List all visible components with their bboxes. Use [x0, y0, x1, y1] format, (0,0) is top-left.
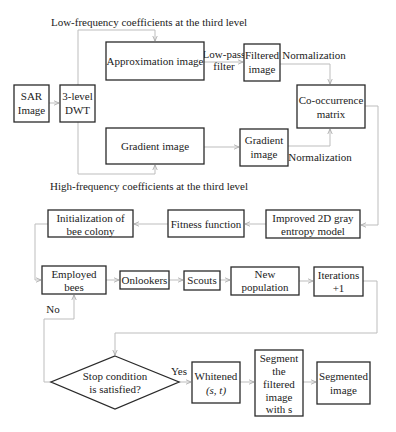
connectors — [35, 30, 378, 382]
svg-text:Fitness function: Fitness function — [171, 218, 242, 230]
node-improved-entropy-model: Improved 2D gray entropy model — [266, 210, 360, 238]
svg-text:Image: Image — [18, 104, 46, 116]
svg-text:+1: +1 — [333, 282, 345, 294]
node-gradient-image-large: Gradient image — [106, 128, 204, 164]
node-approximation-image: Approximation image — [106, 42, 204, 80]
svg-text:SAR: SAR — [21, 90, 43, 102]
flowchart: Low-frequency coefficients at the third … — [0, 0, 396, 432]
node-whitened: Whitened (s, t) — [192, 362, 240, 403]
yes-label: Yes — [171, 365, 187, 377]
svg-text:bees: bees — [64, 281, 84, 293]
svg-text:Approximation image: Approximation image — [107, 55, 204, 67]
svg-text:Initialization of: Initialization of — [56, 212, 124, 224]
svg-text:image: image — [249, 63, 276, 75]
node-sar-image: SAR Image — [14, 85, 49, 122]
svg-text:Improved 2D gray: Improved 2D gray — [272, 212, 354, 224]
node-co-occurrence-matrix: Co-occurrence matrix — [297, 85, 365, 128]
svg-text:is satisfied?: is satisfied? — [89, 383, 141, 395]
node-scouts: Scouts — [184, 271, 220, 290]
svg-text:population: population — [241, 281, 289, 293]
low-pass-label-line2: filter — [213, 60, 235, 72]
svg-text:Segment: Segment — [260, 352, 299, 364]
svg-text:(s, t): (s, t) — [206, 384, 227, 397]
svg-text:matrix: matrix — [317, 108, 346, 120]
low-pass-label-line1: Low-pass — [203, 48, 246, 60]
svg-text:New: New — [255, 268, 276, 280]
node-segmented-image: Segmented image — [317, 362, 370, 404]
no-label: No — [46, 303, 60, 315]
node-3-level-dwt: 3-level DWT — [60, 85, 95, 122]
low-frequency-label: Low-frequency coefficients at the third … — [51, 16, 247, 28]
node-new-population: New population — [231, 267, 299, 295]
arrow-filtered-to-cooc — [280, 64, 330, 84]
svg-text:Gradient: Gradient — [245, 134, 283, 146]
high-frequency-label: High-frequency coefficients at the third… — [50, 180, 248, 192]
svg-text:Filtered: Filtered — [245, 49, 280, 61]
node-segment-filtered-image: Segment the filtered image with s — [255, 350, 303, 416]
normalization-top-label: Normalization — [282, 49, 346, 61]
node-stop-condition: Stop condition is satisfied? — [51, 356, 179, 409]
svg-text:3-level: 3-level — [62, 90, 93, 102]
svg-text:Scouts: Scouts — [187, 274, 216, 286]
svg-text:image: image — [251, 148, 278, 160]
svg-text:bee colony: bee colony — [67, 225, 115, 237]
node-onlookers: Onlookers — [120, 271, 169, 289]
node-gradient-image-small: Gradient image — [240, 129, 288, 166]
svg-text:DWT: DWT — [65, 104, 90, 116]
svg-text:Iterations: Iterations — [318, 269, 360, 281]
node-iterations: Iterations +1 — [314, 267, 363, 296]
node-employed-bees: Employed bees — [42, 266, 106, 294]
svg-text:Employed: Employed — [51, 268, 97, 280]
svg-text:with s: with s — [266, 403, 293, 415]
svg-text:image: image — [330, 384, 357, 396]
node-initialization-bee-colony: Initialization of bee colony — [48, 210, 133, 237]
arrow-gradient-to-cooc — [288, 129, 330, 146]
svg-text:Co-occurrence: Co-occurrence — [299, 94, 364, 106]
svg-text:Whitened: Whitened — [195, 370, 238, 382]
svg-text:Stop condition: Stop condition — [83, 370, 148, 382]
svg-text:Onlookers: Onlookers — [122, 274, 168, 286]
svg-text:the: the — [272, 365, 286, 377]
svg-text:entropy model: entropy model — [281, 225, 345, 237]
svg-text:Gradient image: Gradient image — [121, 140, 189, 152]
node-filtered-image: Filtered image — [244, 44, 280, 81]
node-fitness-function: Fitness function — [168, 210, 244, 237]
normalization-bottom-label: Normalization — [288, 151, 352, 163]
svg-text:image: image — [266, 391, 293, 403]
svg-text:filtered: filtered — [263, 378, 295, 390]
svg-text:Segmented: Segmented — [319, 370, 368, 382]
